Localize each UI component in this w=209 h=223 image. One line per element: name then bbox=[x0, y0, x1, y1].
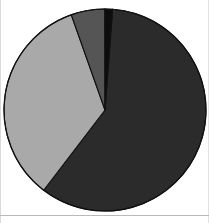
pie-chart-plot: Slice 1 — 59.2%Slice 2 — 34.2%Slice 3 — … bbox=[0, 0, 209, 223]
pie-chart-figure: Slice 1 — 59.2%Slice 2 — 34.2%Slice 3 — … bbox=[0, 0, 209, 223]
pie-slices-group: Slice 1 — 59.2%Slice 2 — 34.2%Slice 3 — … bbox=[4, 9, 206, 211]
